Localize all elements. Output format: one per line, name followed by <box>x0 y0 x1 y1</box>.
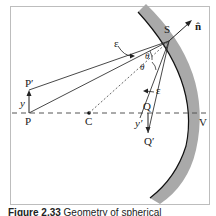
label-y: y <box>20 98 25 109</box>
figure-caption: Figure 2.33 Geometry of spherical <box>8 207 161 216</box>
normal-line-c-to-s <box>89 41 169 113</box>
label-theta-2: θ <box>140 63 144 72</box>
figure-number: Figure 2.33 <box>8 207 61 216</box>
theta-arc-2 <box>152 62 156 70</box>
ray-p-prime-to-s <box>29 41 169 90</box>
label-c: C <box>85 116 92 127</box>
label-n-hat: n̂ <box>195 21 201 32</box>
label-s: S <box>164 24 170 35</box>
label-p-prime: P′ <box>25 78 34 89</box>
label-y-prime: y′ <box>135 118 142 129</box>
label-q: Q <box>143 101 151 112</box>
normal-vector <box>169 23 189 41</box>
figure-caption-text: Geometry of spherical <box>64 207 162 216</box>
spherical-mirror-diagram <box>0 0 216 216</box>
label-theta-1: θ <box>145 52 149 61</box>
label-epsilon-lower: ε <box>156 85 161 96</box>
object-arrowhead-icon <box>27 90 32 96</box>
label-epsilon-upper: ε <box>114 38 119 49</box>
label-v: V <box>199 117 207 128</box>
label-p: P <box>25 116 31 127</box>
epsilon-lower-arrowhead-icon <box>143 89 148 94</box>
label-q-prime: Q′ <box>144 136 154 147</box>
theta-arc-1 <box>150 51 152 60</box>
